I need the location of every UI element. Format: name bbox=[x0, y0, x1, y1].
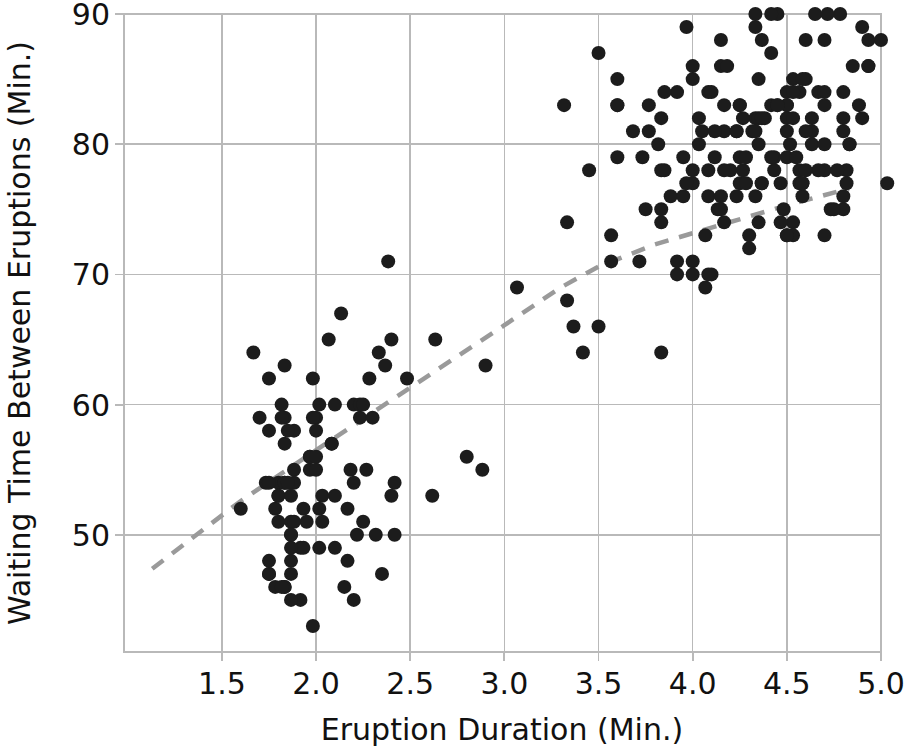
data-point bbox=[767, 163, 781, 177]
x-tick-label: 2.0 bbox=[292, 666, 340, 701]
data-point bbox=[701, 163, 715, 177]
data-point bbox=[855, 20, 869, 34]
y-tick-label: 70 bbox=[72, 257, 110, 292]
data-point bbox=[610, 98, 624, 112]
data-point bbox=[262, 476, 276, 490]
data-point bbox=[262, 554, 276, 568]
data-point bbox=[836, 124, 850, 138]
data-point bbox=[309, 463, 323, 477]
data-point bbox=[381, 254, 395, 268]
data-point bbox=[698, 280, 712, 294]
data-point bbox=[642, 98, 656, 112]
x-tick-label: 4.0 bbox=[669, 666, 717, 701]
data-point bbox=[284, 554, 298, 568]
data-point bbox=[830, 163, 844, 177]
data-point bbox=[372, 346, 386, 360]
data-point bbox=[692, 111, 706, 125]
data-point bbox=[686, 163, 700, 177]
data-point bbox=[347, 476, 361, 490]
data-point bbox=[799, 124, 813, 138]
data-point bbox=[300, 515, 314, 529]
x-tick-label: 1.5 bbox=[198, 666, 246, 701]
data-point bbox=[312, 398, 326, 412]
data-point bbox=[861, 33, 875, 47]
data-point bbox=[780, 124, 794, 138]
data-point bbox=[341, 502, 355, 516]
data-point bbox=[315, 489, 329, 503]
data-point bbox=[733, 98, 747, 112]
data-point bbox=[284, 567, 298, 581]
data-point bbox=[322, 333, 336, 347]
data-point bbox=[774, 215, 788, 229]
data-point bbox=[720, 59, 734, 73]
x-tick-label: 5.0 bbox=[857, 666, 905, 701]
data-point bbox=[510, 280, 524, 294]
data-point bbox=[384, 489, 398, 503]
data-point bbox=[764, 150, 778, 164]
data-point bbox=[799, 33, 813, 47]
data-point bbox=[739, 176, 753, 190]
data-point bbox=[306, 372, 320, 386]
data-point bbox=[268, 502, 282, 516]
data-point bbox=[312, 502, 326, 516]
y-axis-title: Waiting Time Between Eruptions (Min.) bbox=[2, 41, 37, 625]
data-point bbox=[789, 150, 803, 164]
data-point bbox=[306, 619, 320, 633]
data-point bbox=[861, 59, 875, 73]
data-point bbox=[651, 137, 665, 151]
data-point bbox=[752, 215, 766, 229]
data-point bbox=[742, 228, 756, 242]
data-point bbox=[686, 72, 700, 86]
x-tick-label: 2.5 bbox=[386, 666, 434, 701]
data-point bbox=[334, 306, 348, 320]
data-point bbox=[557, 98, 571, 112]
data-point bbox=[475, 463, 489, 477]
data-point bbox=[654, 163, 668, 177]
data-point bbox=[708, 124, 722, 138]
data-point bbox=[654, 215, 668, 229]
data-point bbox=[428, 333, 442, 347]
data-point bbox=[843, 137, 857, 151]
plot-canvas: 1.52.02.53.03.54.04.55.0 5060708090 Erup… bbox=[0, 0, 905, 756]
data-point bbox=[657, 85, 671, 99]
data-point bbox=[783, 137, 797, 151]
y-tick-label: 60 bbox=[72, 388, 110, 423]
data-point bbox=[818, 137, 832, 151]
data-point bbox=[576, 346, 590, 360]
scatter-plot-figure: 1.52.02.53.03.54.04.55.0 5060708090 Erup… bbox=[0, 0, 905, 756]
data-point bbox=[679, 176, 693, 190]
data-point bbox=[664, 189, 678, 203]
data-point bbox=[827, 202, 841, 216]
x-tick-label: 3.5 bbox=[575, 666, 623, 701]
data-point bbox=[262, 424, 276, 438]
data-point bbox=[880, 176, 894, 190]
data-point bbox=[271, 489, 285, 503]
data-point bbox=[818, 85, 832, 99]
data-point bbox=[610, 72, 624, 86]
data-point bbox=[341, 554, 355, 568]
data-point bbox=[852, 98, 866, 112]
data-point bbox=[855, 111, 869, 125]
data-point bbox=[818, 228, 832, 242]
data-point bbox=[309, 450, 323, 464]
data-point bbox=[356, 398, 370, 412]
data-point bbox=[296, 502, 310, 516]
data-point bbox=[425, 489, 439, 503]
data-point bbox=[359, 463, 373, 477]
data-point bbox=[388, 528, 402, 542]
data-point bbox=[635, 150, 649, 164]
data-point bbox=[836, 111, 850, 125]
data-point bbox=[281, 476, 295, 490]
data-point bbox=[836, 85, 850, 99]
data-point bbox=[777, 202, 791, 216]
data-point bbox=[717, 163, 731, 177]
data-point bbox=[774, 176, 788, 190]
data-point bbox=[679, 20, 693, 34]
y-tick-label: 80 bbox=[72, 127, 110, 162]
data-point bbox=[560, 215, 574, 229]
data-point bbox=[344, 463, 358, 477]
data-point bbox=[566, 319, 580, 333]
data-point bbox=[375, 567, 389, 581]
data-point bbox=[686, 267, 700, 281]
data-point bbox=[262, 372, 276, 386]
